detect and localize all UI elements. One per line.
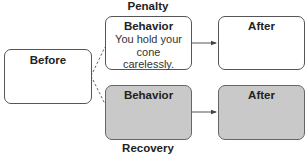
penalty-behavior-title: Behavior [106,20,191,33]
recovery-after-title: After [219,89,304,102]
before-title: Before [5,54,91,67]
recovery-after-box: After [218,85,305,140]
recovery-label: Recovery [103,142,193,154]
recovery-behavior-title: Behavior [106,89,191,102]
before-box: Before [4,49,92,104]
penalty-behavior-box: Behavior You hold your cone carelessly. [105,16,192,70]
penalty-label: Penalty [103,0,193,12]
recovery-behavior-box: Behavior [105,85,192,140]
penalty-after-box: After [218,16,305,70]
dashed-connector-recovery [91,76,105,104]
dashed-connector-penalty [91,47,105,76]
penalty-behavior-text: You hold your cone carelessly. [106,33,191,71]
penalty-after-title: After [219,20,304,33]
